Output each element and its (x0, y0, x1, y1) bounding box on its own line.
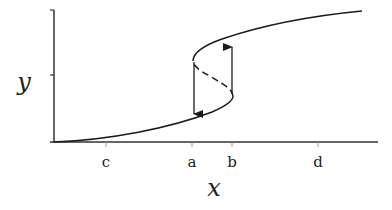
y-axis-label: y (16, 68, 31, 96)
middle-unstable-branch (193, 61, 233, 96)
x-tick-label-a: a (188, 153, 197, 171)
x-axis-label: x (207, 174, 221, 202)
s-curve (54, 11, 362, 142)
x-tick-label-d: d (313, 153, 323, 171)
lower-stable-branch (54, 96, 233, 142)
upper-stable-branch (193, 11, 362, 61)
x-tick-label-c: c (102, 153, 110, 171)
hysteresis-diagram: c a b d y x (0, 0, 392, 210)
x-tick-label-b: b (227, 153, 237, 171)
